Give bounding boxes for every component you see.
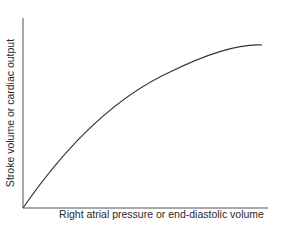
- frank-starling-chart: [0, 0, 285, 233]
- y-axis-label: Stroke volume or cardiac output: [3, 18, 17, 208]
- curve-line: [23, 45, 262, 208]
- x-axis-label: Right atrial pressure or end-diastolic v…: [0, 208, 285, 220]
